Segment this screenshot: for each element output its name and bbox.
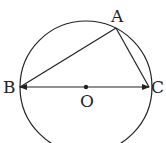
label-b: B	[3, 77, 16, 97]
label-o: O	[80, 91, 94, 111]
geometry-diagram: A B C O	[0, 0, 166, 143]
segment-ab	[20, 28, 116, 87]
segment-ac	[116, 28, 149, 87]
circle	[20, 21, 152, 143]
label-a: A	[110, 6, 124, 26]
center-point	[84, 85, 88, 89]
label-c: C	[151, 77, 164, 97]
